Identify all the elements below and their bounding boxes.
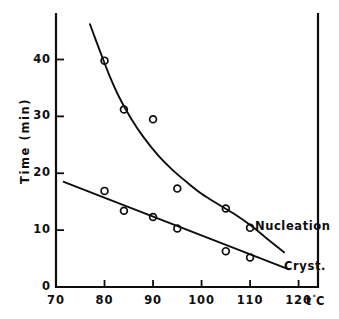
x-tick-label: 100 <box>188 295 215 307</box>
curve-label-cryst: Cryst. <box>284 261 326 273</box>
data-point <box>150 116 157 123</box>
x-tick-label: 90 <box>144 295 162 307</box>
x-tick-label: 110 <box>237 295 264 307</box>
x-tick-label: 80 <box>96 295 114 307</box>
data-point <box>101 187 108 194</box>
y-tick-label: 20 <box>33 168 51 180</box>
y-tick-label: 0 <box>42 281 51 293</box>
curve-label-nucleation: Nucleation <box>255 221 331 233</box>
x-axis-title: t°C <box>306 295 326 307</box>
data-point <box>174 185 181 192</box>
y-tick-label: 30 <box>33 111 51 123</box>
y-axis-title: Time (min) <box>20 97 32 183</box>
x-tick-label: 70 <box>47 295 65 307</box>
data-point <box>121 207 128 214</box>
x-axis-symbol: t <box>306 294 313 308</box>
series-cryst-points <box>101 187 253 260</box>
y-tick-label: 10 <box>33 224 51 236</box>
figure-container: 708090100110120 010203040 Time (min) t°C… <box>0 0 339 319</box>
x-axis-scale: C <box>316 294 326 308</box>
y-axis-ticks <box>56 60 64 231</box>
axis-frame <box>56 14 318 287</box>
y-tick-label: 40 <box>33 54 51 66</box>
data-point <box>222 248 229 255</box>
